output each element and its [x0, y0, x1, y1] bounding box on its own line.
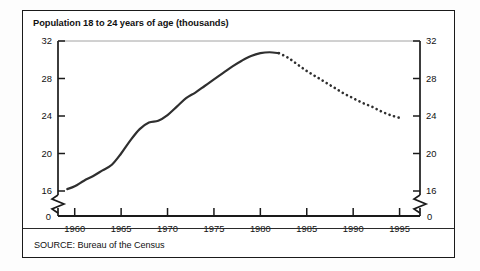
svg-text:24: 24	[426, 110, 436, 121]
chart-screenshot: Population 18 to 24 years of age (thousa…	[0, 0, 480, 271]
svg-text:32: 32	[426, 35, 436, 46]
data-series-group	[67, 52, 399, 189]
svg-text:16: 16	[42, 185, 52, 196]
tick-labels-group: 3232282824242020161600196019651970197519…	[42, 35, 437, 234]
svg-text:0: 0	[427, 211, 432, 222]
svg-text:0: 0	[46, 211, 51, 222]
series-line-actual	[67, 52, 279, 189]
series-line-projected	[279, 53, 400, 118]
svg-text:20: 20	[426, 148, 436, 159]
svg-text:32: 32	[42, 35, 52, 46]
svg-text:16: 16	[426, 185, 436, 196]
axes-group	[52, 41, 426, 216]
plot-svg: 3232282824242020161600196019651970197519…	[23, 11, 456, 259]
svg-text:28: 28	[426, 73, 436, 84]
svg-text:28: 28	[42, 73, 52, 84]
plot-area: 3232282824242020161600196019651970197519…	[23, 11, 454, 257]
chart-frame: Population 18 to 24 years of age (thousa…	[22, 10, 455, 258]
source-note: SOURCE: Bureau of the Census	[34, 240, 165, 250]
source-divider	[23, 228, 454, 229]
svg-text:20: 20	[42, 148, 52, 159]
svg-text:24: 24	[42, 110, 52, 121]
